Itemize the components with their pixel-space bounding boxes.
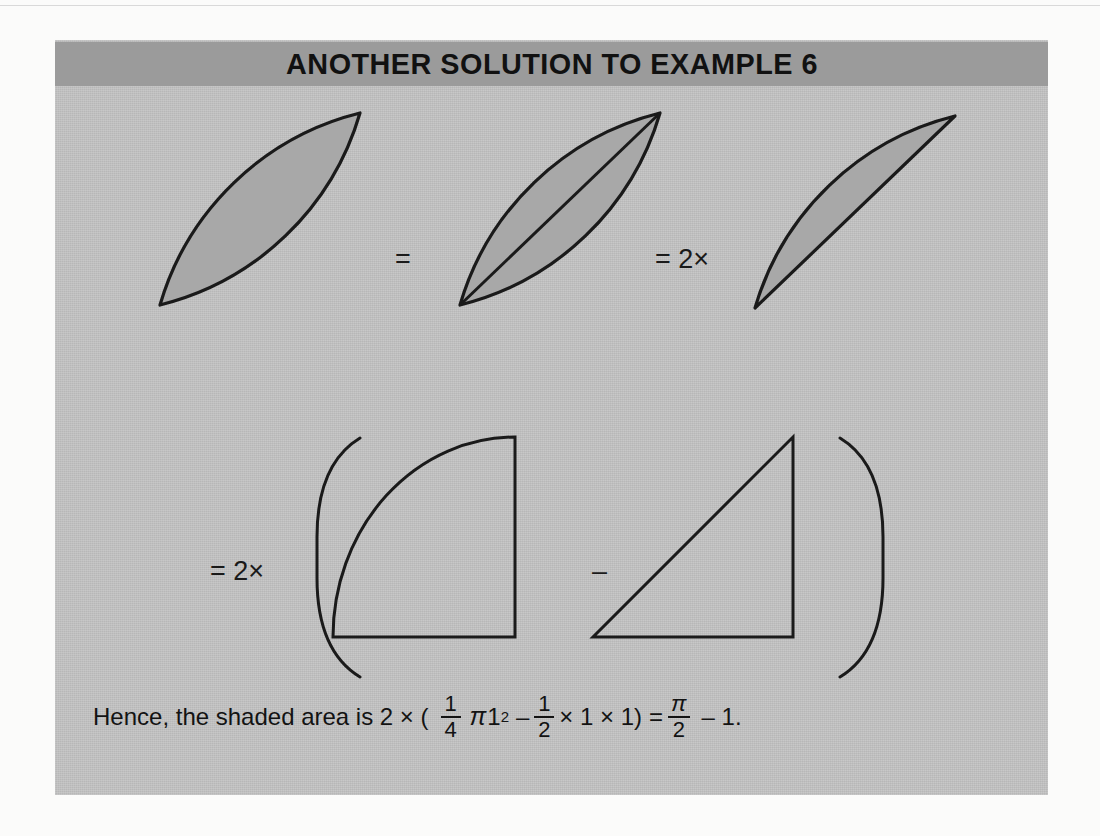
- quarter-circle-shape: [333, 437, 515, 637]
- fraction-one-quarter: 1 4: [441, 693, 461, 741]
- conclusion-tail-text: – 1.: [702, 703, 742, 731]
- operator-equals-row1: =: [395, 246, 411, 273]
- fraction-denominator: 2: [670, 718, 688, 741]
- operator-minus-row2: –: [592, 558, 607, 585]
- fraction-pi-over-two: π 2: [668, 692, 689, 741]
- fraction-numerator: 1: [441, 693, 459, 716]
- figure-panel: ANOTHER SOLUTION TO EXAMPLE 6 =: [55, 40, 1048, 795]
- half-lens-shape: [755, 116, 955, 308]
- minus-sign-inline: –: [516, 703, 529, 731]
- conclusion-lead-text: Hence, the shaded area is 2 × (: [93, 703, 429, 731]
- scanned-page: ANOTHER SOLUTION TO EXAMPLE 6 =: [0, 0, 1100, 836]
- fraction-denominator: 4: [441, 718, 459, 741]
- times-one-times-one: × 1 × 1): [559, 703, 642, 731]
- lens-divider-line: [460, 113, 660, 305]
- fraction-one-half: 1 2: [534, 693, 554, 741]
- fraction-denominator: 2: [535, 718, 553, 741]
- figure-banner: ANOTHER SOLUTION TO EXAMPLE 6: [55, 42, 1048, 86]
- conclusion-formula: Hence, the shaded area is 2 × ( 1 4 π 1 …: [93, 692, 742, 741]
- operator-equals-two-times-row2: = 2×: [210, 558, 264, 585]
- exponent-two: 2: [501, 708, 509, 725]
- radius-value: 1: [487, 703, 500, 731]
- geometry-illustration: [55, 40, 1048, 795]
- operator-equals-two-times-row1: = 2×: [655, 246, 709, 273]
- right-parenthesis: [840, 438, 883, 677]
- pi-symbol: π: [470, 702, 487, 731]
- scan-artifact-line: [0, 5, 1100, 6]
- fraction-numerator: π: [668, 692, 689, 716]
- lens-shape-1: [160, 113, 360, 305]
- page-title: ANOTHER SOLUTION TO EXAMPLE 6: [286, 47, 818, 81]
- right-triangle-shape: [593, 437, 793, 637]
- fraction-numerator: 1: [535, 693, 553, 716]
- left-parenthesis: [317, 438, 360, 677]
- equals-sign-inline: =: [649, 703, 663, 731]
